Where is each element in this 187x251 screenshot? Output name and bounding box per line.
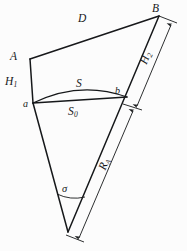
figure-drawing-canvas xyxy=(0,0,187,251)
outline-group xyxy=(30,16,159,232)
label-S0-base: S xyxy=(68,105,74,117)
segment-S0 xyxy=(33,97,127,103)
dim-tick-B xyxy=(159,16,177,23)
segment-H1 xyxy=(30,59,33,103)
dim-line-H2 xyxy=(137,25,171,106)
label-S0: S0 xyxy=(68,106,78,119)
segment-RA-ray xyxy=(68,16,159,232)
angle-arc-sigma xyxy=(57,194,85,198)
geometry-figure: D A B H1 H2 S S0 a b RA σ xyxy=(0,0,187,251)
segment-left-ray xyxy=(33,103,68,232)
label-S0-sub: 0 xyxy=(74,110,78,119)
label-A: A xyxy=(10,51,17,63)
label-D: D xyxy=(78,13,86,25)
label-B: B xyxy=(152,3,159,15)
label-H1-sub: 1 xyxy=(13,80,17,89)
label-H1: H1 xyxy=(5,76,17,89)
dimension-group xyxy=(66,16,177,242)
label-S: S xyxy=(76,78,82,90)
arc-S xyxy=(33,90,127,103)
dim-tick-b xyxy=(123,104,142,110)
dim-tick-apex xyxy=(66,235,84,242)
label-point-b: b xyxy=(115,86,120,96)
label-point-a: a xyxy=(23,99,28,109)
segment-D xyxy=(30,16,159,59)
dim-line-RA xyxy=(79,111,133,238)
label-sigma: σ xyxy=(62,184,67,195)
